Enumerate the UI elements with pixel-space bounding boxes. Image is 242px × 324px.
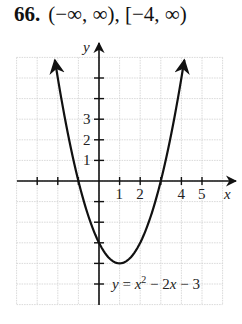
x-tick-label: 1 — [116, 186, 124, 202]
y-tick-label: 2 — [83, 132, 91, 148]
x-axis-label: x — [223, 186, 231, 202]
y-tick-label: 3 — [83, 111, 91, 127]
x-tick-label: 4 — [177, 186, 185, 202]
tick-labels: 1245123 — [83, 111, 206, 202]
x-tick-label: 5 — [198, 186, 206, 202]
y-axis-label: y — [81, 39, 90, 55]
parabola-graph: 1245123 y x y = x2 − 2x − 3 — [0, 0, 242, 324]
x-tick-label: 2 — [136, 186, 144, 202]
y-tick-label: 1 — [83, 152, 91, 168]
equation-label: y = x2 − 2x − 3 — [110, 274, 200, 292]
